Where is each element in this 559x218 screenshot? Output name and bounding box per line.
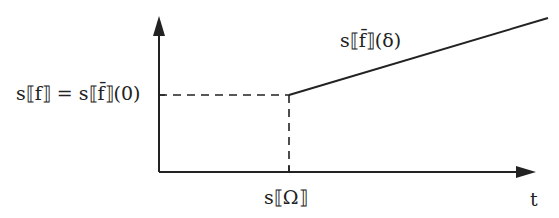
x-tick-label: s⟦Ω⟧ [264,188,308,207]
rising-line [289,18,548,95]
y-axis-arrow-icon [153,16,165,36]
line-label: s⟦f̄⟧(δ) [340,31,401,50]
y-value-label: s⟦f⟧ = s⟦f̄⟧(0) [16,84,140,103]
x-axis-arrow-icon [516,166,536,178]
x-axis-label: t [530,190,538,209]
